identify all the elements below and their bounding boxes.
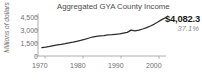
data-series-line bbox=[42, 17, 166, 47]
plot-area bbox=[0, 0, 202, 81]
chart-container: Aggregated GYA County Income Millions of… bbox=[0, 0, 202, 81]
